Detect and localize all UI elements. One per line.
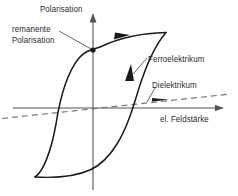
- hysteresis-figure: Polarisation remanente Polarisation Ferr…: [0, 0, 238, 196]
- remanent-polarisation-label-line1: remanente: [12, 24, 54, 35]
- remanent-polarisation-marker: [90, 47, 95, 52]
- loop-arrow-rising-icon: [125, 64, 134, 81]
- hysteresis-upper-branch: [35, 33, 166, 178]
- remanent-polarisation-label: remanente Polarisation: [12, 24, 54, 46]
- leader-remanent-polarisation: [59, 31, 91, 49]
- dielectric-label: Dielektrikum: [152, 80, 197, 91]
- y-axis-label: Polarisation: [40, 4, 82, 15]
- hysteresis-lower-branch: [35, 33, 166, 178]
- remanent-polarisation-label-line2: Polarisation: [12, 35, 54, 46]
- x-axis-label: el. Feldstärke: [160, 114, 209, 125]
- ferroelectric-label: Ferroelektrikum: [148, 54, 204, 65]
